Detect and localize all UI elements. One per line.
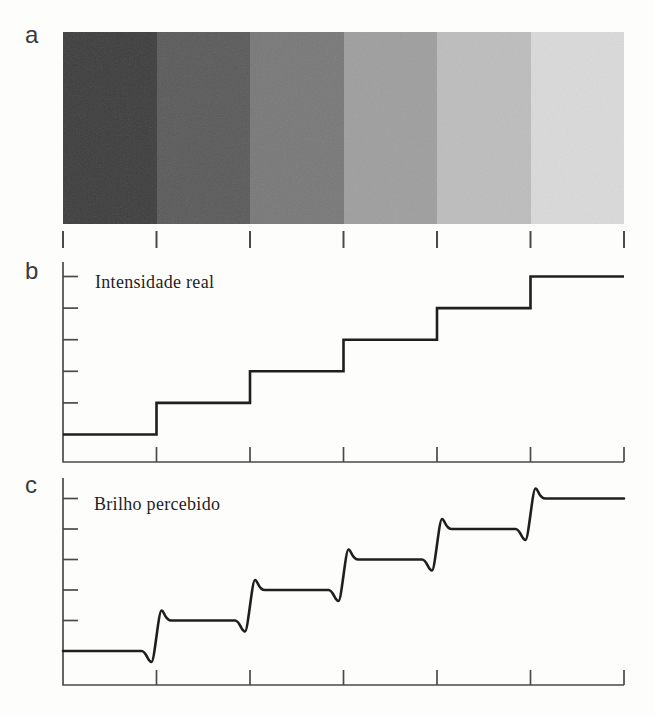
- mach-band-figure: a b c Intensidade real Brilho percebido: [0, 0, 654, 715]
- panel-b-staircase-curve: [63, 277, 624, 435]
- panel-b-axes: [63, 262, 624, 462]
- film-grain-overlay: [63, 32, 624, 224]
- panel-b-label: b: [25, 258, 38, 284]
- panel-c-title: Brilho percebido: [94, 494, 220, 514]
- panel-c-perceived-brightness-curve: [63, 488, 624, 662]
- grayscale-strip: [63, 32, 624, 224]
- panel-c-label: c: [25, 472, 37, 498]
- panel-a-label: a: [25, 22, 38, 48]
- panel-b-title: Intensidade real: [95, 272, 214, 292]
- grain-noise-rect: [63, 32, 624, 224]
